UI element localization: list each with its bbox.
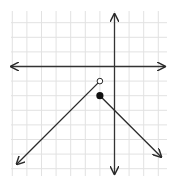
left-branch-line: [17, 81, 100, 164]
closed-endpoint-icon: [96, 92, 103, 99]
function-branches: [17, 78, 162, 164]
piecewise-function-graph: [0, 0, 175, 181]
grid-lines: [11, 11, 167, 176]
right-branch-line: [100, 96, 161, 157]
open-endpoint-icon: [97, 78, 103, 84]
axes: [11, 14, 165, 174]
